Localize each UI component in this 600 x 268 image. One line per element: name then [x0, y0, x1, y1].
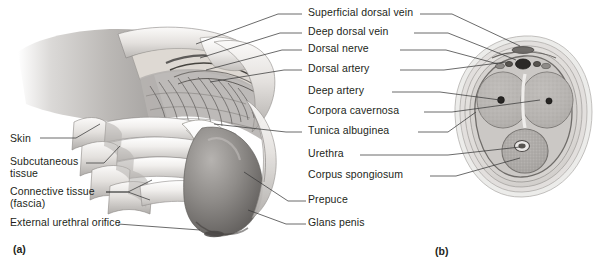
- label-superficial-dorsal-vein: Superficial dorsal vein: [308, 6, 413, 18]
- label-connective-tissue-line2: (fascia): [10, 197, 45, 209]
- label-urethra: Urethra: [308, 147, 344, 159]
- label-deep-artery: Deep artery: [308, 84, 364, 96]
- label-prepuce: Prepuce: [308, 193, 348, 205]
- label-corpora-cavernosa: Corpora cavernosa: [308, 104, 399, 116]
- deep-dorsal-vein-xs: [516, 59, 531, 69]
- label-external-urethral-orifice: External urethral orifice: [10, 216, 121, 228]
- anatomy-figure: Skin Subcutaneous tissue Connective tiss…: [0, 0, 600, 268]
- dorsal-nerve-left-xs: [496, 63, 505, 68]
- label-subcutaneous-tissue-line1: Subcutaneous: [10, 155, 78, 167]
- label-connective-tissue-line1: Connective tissue: [10, 185, 95, 197]
- label-subcutaneous-tissue-line2: tissue: [10, 167, 38, 179]
- dorsal-nerve-right-xs: [542, 63, 551, 68]
- dorsal-artery-right-xs: [533, 61, 540, 66]
- label-deep-dorsal-vein: Deep dorsal vein: [308, 25, 388, 37]
- dorsal-artery-left-xs: [505, 61, 512, 66]
- external-urethral-orifice-marker: [204, 231, 224, 237]
- label-corpus-spongiosum: Corpus spongiosum: [308, 168, 403, 180]
- deep-artery-left: [498, 97, 505, 104]
- label-glans-penis: Glans penis: [308, 216, 365, 228]
- label-skin: Skin: [10, 132, 31, 144]
- panel-letter-a: (a): [13, 243, 26, 255]
- label-dorsal-nerve: Dorsal nerve: [308, 42, 369, 54]
- label-dorsal-artery: Dorsal artery: [308, 62, 369, 74]
- panel-b-cross-section-illustration: [455, 36, 592, 197]
- deep-artery-right: [546, 98, 552, 104]
- label-tunica-albuginea: Tunica albuginea: [308, 124, 389, 136]
- panel-a-longitudinal-illustration: [18, 27, 276, 237]
- panel-letter-b: (b): [435, 245, 448, 257]
